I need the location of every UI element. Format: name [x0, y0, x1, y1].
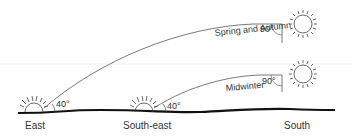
midwinter-angle-label: 90° [262, 76, 276, 86]
angle-label-east: 40° [56, 99, 70, 109]
midwinter-label: Midwinter [225, 80, 264, 93]
direction-label-east: East [25, 120, 45, 131]
spring-autumn-path [44, 24, 282, 108]
sun-rising-east-icon [20, 96, 48, 112]
angle-label-southeast: 40° [167, 101, 181, 111]
spring-autumn-angle-label: 90° [260, 24, 274, 34]
sun-spring-autumn-icon [289, 10, 317, 38]
direction-label-south: South [284, 120, 310, 131]
spring-autumn-label: Spring and Autumn [214, 20, 291, 38]
sun-path-diagram: 40° Spring and Autumn 90° 40° Midwinter … [0, 0, 351, 138]
direction-label-southeast: South-east [123, 120, 172, 131]
